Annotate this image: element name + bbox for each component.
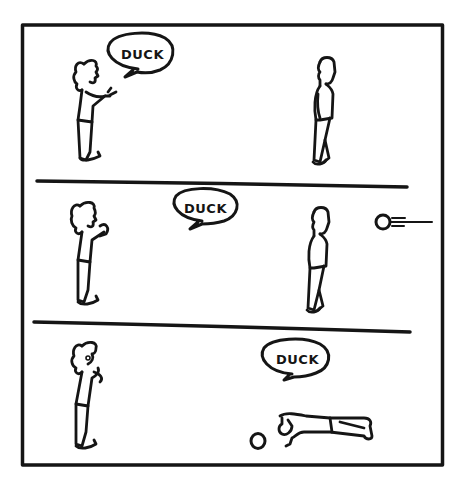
ball-on-ground [251,434,265,449]
speech-bubble-text: DUCK [276,352,319,367]
left-person [74,60,116,160]
speech-bubble-text: DUCK [184,201,227,216]
speech-bubble-text: DUCK [121,47,164,62]
panel-1: DUCK [74,33,335,164]
speech-bubble: DUCK [262,339,328,380]
right-person [307,208,329,313]
speech-bubble: DUCK [108,33,173,77]
panel-2: DUCK [71,189,432,313]
right-person [313,58,335,165]
panel-divider-1 [37,181,407,187]
speech-bubble: DUCK [174,189,237,229]
panel-divider-2 [34,322,410,332]
left-person [72,342,102,448]
panel-3: DUCK [72,339,372,448]
lying-person [279,414,372,446]
comic-strip: DUCK DUCK [0,0,465,488]
left-person [71,202,107,304]
flying-ball [376,215,432,229]
